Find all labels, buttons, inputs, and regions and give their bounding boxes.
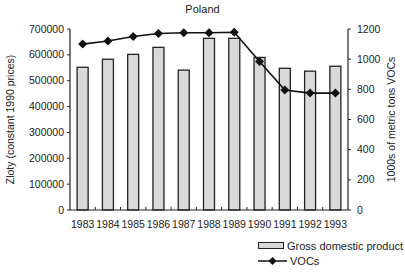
svg-text:200: 200 [357,173,375,185]
svg-text:1992: 1992 [298,218,322,230]
svg-text:1986: 1986 [147,218,171,230]
svg-text:0: 0 [58,204,64,216]
svg-text:700000: 700000 [29,23,64,35]
svg-text:1989: 1989 [223,218,247,230]
bar-gdp-1993 [330,66,341,210]
svg-text:1000: 1000 [357,53,381,65]
svg-text:1985: 1985 [122,218,146,230]
voc-marker-1984 [103,37,112,46]
bar-gdp-1986 [153,47,164,210]
voc-marker-1988 [205,28,214,37]
svg-text:1983: 1983 [71,218,95,230]
legend-item-gdp: Gross domestic product [258,238,403,253]
legend-label-vocs: VOCs [290,255,319,267]
legend-bar-swatch-icon [258,242,284,249]
bar-gdp-1988 [204,38,215,210]
chart-legend: Gross domestic product VOCs [258,238,403,268]
legend-item-vocs: VOCs [258,253,403,268]
svg-text:500000: 500000 [29,74,64,86]
voc-marker-1983 [78,40,87,49]
bar-gdp-1990 [254,57,265,210]
bar-gdp-1985 [128,54,139,210]
chart-plot: 0100000200000300000400000500000600000700… [0,0,405,275]
svg-text:1984: 1984 [96,218,120,230]
svg-text:600000: 600000 [29,48,64,60]
svg-text:0: 0 [357,204,363,216]
bar-gdp-1984 [102,59,113,210]
svg-text:1993: 1993 [324,218,348,230]
svg-text:200000: 200000 [29,152,64,164]
svg-text:400: 400 [357,143,375,155]
svg-text:300000: 300000 [29,126,64,138]
svg-text:600: 600 [357,113,375,125]
svg-text:1990: 1990 [248,218,272,230]
svg-text:1991: 1991 [273,218,297,230]
svg-text:1987: 1987 [172,218,196,230]
svg-text:100000: 100000 [29,178,64,190]
bar-gdp-1983 [77,67,88,210]
svg-text:400000: 400000 [29,100,64,112]
svg-text:1000s of metric tons VOCs: 1000s of metric tons VOCs [385,57,397,182]
voc-marker-1985 [129,32,138,41]
voc-marker-1986 [154,29,163,38]
svg-text:1200: 1200 [357,23,381,35]
voc-marker-1987 [179,28,188,37]
bar-gdp-1989 [229,38,240,210]
svg-text:1988: 1988 [197,218,221,230]
svg-text:Zloty (constant 1990 prices): Zloty (constant 1990 prices) [4,55,16,185]
legend-line-diamond-icon [258,256,287,266]
bar-gdp-1987 [178,70,189,210]
svg-text:800: 800 [357,83,375,95]
legend-label-gdp: Gross domestic product [287,240,403,252]
